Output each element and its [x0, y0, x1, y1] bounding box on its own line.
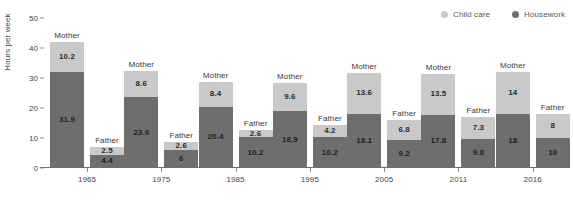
segment-housework[interactable]: 23.6 [124, 97, 158, 168]
legend-swatch-housework [512, 11, 519, 18]
bar-2011-mother[interactable]: Mother13.517.8 [421, 74, 455, 168]
bar-2011-father[interactable]: Father7.39.8 [461, 117, 495, 168]
segment-value-child-care: 8.4 [210, 90, 221, 98]
x-axis-label-2016: 2016 [524, 175, 542, 184]
segment-housework[interactable]: 6 [164, 150, 198, 168]
bar-groups: Mother10.231.9Father2.54.4Mother8.623.6F… [44, 18, 564, 186]
y-axis-tick-label: 0 [16, 164, 38, 173]
segment-housework[interactable]: 18 [496, 114, 530, 168]
bar-label-mother: Mother [426, 63, 452, 72]
segment-housework[interactable]: 31.9 [50, 72, 84, 168]
segment-value-housework: 20.4 [208, 133, 224, 141]
segment-child-care[interactable]: 8.4 [199, 82, 233, 107]
segment-value-housework: 18.1 [356, 137, 372, 145]
segment-housework[interactable]: 20.4 [199, 107, 233, 168]
legend-swatch-child-care [441, 11, 448, 18]
bar-group-1985: Mother8.420.4Father2.610.2 [199, 18, 273, 168]
x-axis-labels: 1965197519851995200520112016 [44, 168, 564, 186]
bar-group-1975: Mother8.623.6Father2.66 [124, 18, 198, 168]
bar-1975-father[interactable]: Father2.66 [164, 142, 198, 168]
segment-child-care[interactable]: 13.5 [421, 74, 455, 115]
bar-label-father: Father [95, 136, 119, 145]
segment-value-housework: 10 [548, 149, 557, 157]
segment-housework[interactable]: 18.9 [273, 111, 307, 168]
y-axis-tick-label: 50 [16, 14, 38, 23]
bar-label-father: Father [318, 114, 342, 123]
segment-value-housework: 31.9 [59, 116, 75, 124]
segment-housework[interactable]: 9.2 [387, 140, 421, 168]
segment-child-care[interactable]: 2.6 [164, 142, 198, 150]
segment-housework[interactable]: 10 [536, 138, 570, 168]
bar-2016-father[interactable]: Father810 [536, 114, 570, 168]
y-axis-title: Hours per week [3, 2, 12, 82]
x-axis-label-2011: 2011 [450, 175, 468, 184]
bar-label-father: Father [392, 109, 416, 118]
segment-value-housework: 4.4 [101, 157, 112, 165]
segment-child-care[interactable]: 2.5 [90, 147, 124, 155]
segment-child-care[interactable]: 8 [536, 114, 570, 138]
segment-value-housework: 9.8 [473, 149, 484, 157]
segment-value-child-care: 9.6 [284, 93, 295, 101]
segment-value-child-care: 4.2 [324, 127, 335, 135]
segment-child-care[interactable]: 2.6 [239, 130, 273, 138]
plot-area: 01020304050 Mother10.231.9Father2.54.4Mo… [44, 18, 564, 186]
x-axis-tick-mark [533, 168, 534, 172]
segment-child-care[interactable]: 13.6 [347, 73, 381, 114]
bar-group-2011: Mother13.517.8Father7.39.8 [421, 18, 495, 168]
bar-1965-father[interactable]: Father2.54.4 [90, 147, 124, 168]
segment-child-care[interactable]: 10.2 [50, 42, 84, 73]
segment-housework[interactable]: 9.8 [461, 139, 495, 168]
segment-value-child-care: 8.6 [136, 80, 147, 88]
bar-label-father: Father [541, 103, 565, 112]
bar-label-mother: Mother [500, 61, 526, 70]
segment-value-housework: 23.6 [133, 129, 149, 137]
segment-value-child-care: 13.5 [430, 90, 446, 98]
bar-2005-mother[interactable]: Mother13.618.1 [347, 73, 381, 168]
bar-1985-mother[interactable]: Mother8.420.4 [199, 82, 233, 168]
bar-label-mother: Mother [203, 71, 229, 80]
bar-label-mother: Mother [129, 60, 155, 69]
segment-child-care[interactable]: 9.6 [273, 83, 307, 112]
bar-label-mother: Mother [351, 62, 377, 71]
segment-child-care[interactable]: 6.8 [387, 120, 421, 140]
segment-housework[interactable]: 10.2 [239, 137, 273, 168]
bar-2016-mother[interactable]: Mother1418 [496, 72, 530, 168]
stacked-bar-chart: Child care Housework Hours per week 0102… [0, 0, 573, 212]
y-axis-tick-label: 40 [16, 44, 38, 53]
segment-value-child-care: 2.6 [176, 142, 187, 150]
bar-1975-mother[interactable]: Mother8.623.6 [124, 71, 158, 168]
bar-1995-father[interactable]: Father4.210.2 [313, 125, 347, 168]
bar-label-mother: Mother [277, 72, 303, 81]
segment-housework[interactable]: 18.1 [347, 114, 381, 168]
segment-value-housework: 18 [508, 137, 517, 145]
x-axis-tick-mark [236, 168, 237, 172]
segment-value-housework: 9.2 [398, 150, 409, 158]
segment-child-care[interactable]: 7.3 [461, 117, 495, 139]
bar-group-2005: Mother13.618.1Father6.89.2 [347, 18, 421, 168]
segment-child-care[interactable]: 4.2 [313, 125, 347, 138]
segment-value-child-care: 6.8 [398, 126, 409, 134]
segment-housework[interactable]: 10.2 [313, 137, 347, 168]
bar-2005-father[interactable]: Father6.89.2 [387, 120, 421, 168]
segment-child-care[interactable]: 8.6 [124, 71, 158, 97]
x-axis-tick-mark [458, 168, 459, 172]
segment-value-child-care: 14 [508, 89, 517, 97]
x-axis-label-1995: 1995 [301, 175, 319, 184]
y-axis-tick-label: 20 [16, 104, 38, 113]
y-axis-tick-label: 10 [16, 134, 38, 143]
segment-value-housework: 17.8 [430, 137, 446, 145]
segment-value-child-care: 2.6 [250, 130, 261, 138]
segment-value-housework: 10.2 [322, 149, 338, 157]
bar-label-mother: Mother [54, 31, 80, 40]
segment-housework[interactable]: 17.8 [421, 115, 455, 168]
x-axis-tick-mark [310, 168, 311, 172]
x-axis-tick-mark [384, 168, 385, 172]
segment-child-care[interactable]: 14 [496, 72, 530, 114]
segment-housework[interactable]: 4.4 [90, 155, 124, 168]
bar-1995-mother[interactable]: Mother9.618.9 [273, 83, 307, 168]
bar-1985-father[interactable]: Father2.610.2 [239, 130, 273, 168]
segment-value-child-care: 8 [550, 122, 555, 130]
bar-1965-mother[interactable]: Mother10.231.9 [50, 42, 84, 168]
segment-value-child-care: 7.3 [473, 124, 484, 132]
x-axis-tick-mark [161, 168, 162, 172]
